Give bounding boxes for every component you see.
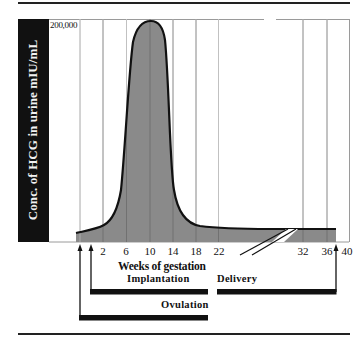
x-tick-40: 40 [342,245,353,257]
hcg-curve [76,21,336,233]
y-tick-200000: 200,000 [50,20,77,30]
delivery-bar [217,289,337,295]
x-tick-14: 14 [168,245,179,257]
x-tick-22: 22 [214,245,225,257]
ovulation-bar [79,315,208,321]
bottom-rule [18,333,350,335]
x-tick-2: 2 [100,245,106,257]
implantation-label: Implantation [127,273,190,284]
x-tick-6: 6 [123,245,129,257]
x-axis-label: Weeks of gestation [118,260,206,272]
implantation-bar [90,289,208,295]
x-tick-18: 18 [191,245,202,257]
ovulation-label: Ovulation [161,299,209,310]
x-tick-32: 32 [298,245,309,257]
x-tick-36: 36 [322,245,333,257]
delivery-marker [217,244,339,295]
x-tick-10: 10 [145,245,156,257]
delivery-label: Delivery [217,273,257,284]
hcg-chart-plot [0,0,364,339]
